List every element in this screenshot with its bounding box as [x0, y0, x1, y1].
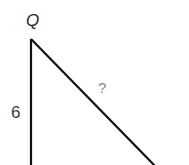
hypotenuse	[31, 39, 157, 165]
vertex-label-q: Q	[26, 12, 39, 29]
hypotenuse-unknown-label: ?	[98, 80, 106, 95]
side-length-label: 6	[11, 104, 20, 121]
triangle-diagram: Q 6 ?	[0, 0, 189, 165]
